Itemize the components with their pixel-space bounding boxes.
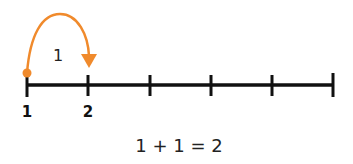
arrowhead-icon — [81, 54, 97, 68]
tick-label-1: 1 — [22, 103, 32, 121]
start-dot-icon — [23, 69, 32, 78]
equation: 1 + 1 = 2 — [135, 135, 222, 156]
tick-label-2: 2 — [83, 103, 93, 121]
jump-label: 1 — [53, 46, 63, 65]
